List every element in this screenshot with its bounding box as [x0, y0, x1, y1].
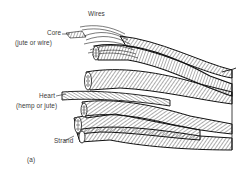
label-core: Core	[47, 30, 61, 36]
panel-label: (a)	[27, 157, 35, 163]
label-strand: Strand	[54, 138, 73, 144]
label-heart: Heart	[39, 93, 55, 99]
wire-rope-illustration	[0, 0, 242, 183]
core-tip	[66, 31, 86, 38]
leader-lines	[56, 34, 74, 141]
wire-rope-diagram: Wires Core (jute or wire) Heart (hemp or…	[0, 0, 242, 183]
label-wires: Wires	[88, 11, 105, 17]
label-heart-note: (hemp or jute)	[16, 103, 57, 109]
label-core-note: (jute or wire)	[15, 40, 52, 46]
